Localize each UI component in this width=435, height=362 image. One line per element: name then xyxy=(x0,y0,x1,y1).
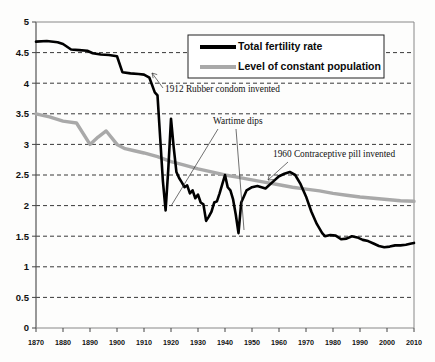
legend-label-level-of-constant-population: Level of constant population xyxy=(238,60,381,72)
x-tick-label-2010: 2010 xyxy=(406,338,422,347)
chart-legend: Total fertility rateLevel of constant po… xyxy=(188,35,384,78)
x-tick-label-1890: 1890 xyxy=(82,338,98,347)
x-tick-label-1900: 1900 xyxy=(109,338,125,347)
y-tick-label-0.5: 0.5 xyxy=(16,292,30,303)
x-tick-label-1940: 1940 xyxy=(217,338,233,347)
annotation-label-rubber-condom: 1912 Rubber condom invented xyxy=(165,84,280,94)
x-tick-label-1910: 1910 xyxy=(136,338,152,347)
y-tick-label-1: 1 xyxy=(24,261,30,272)
y-tick-label-4.5: 4.5 xyxy=(16,47,30,58)
x-tick-label-1930: 1930 xyxy=(190,338,206,347)
y-tick-label-1.5: 1.5 xyxy=(16,231,30,242)
y-tick-label-3: 3 xyxy=(24,139,29,150)
legend-label-total-fertility-rate: Total fertility rate xyxy=(238,40,323,52)
annotation-label-contraceptive-pill: 1960 Contraceptive pill invented xyxy=(273,149,395,159)
y-tick-label-3.5: 3.5 xyxy=(16,108,30,119)
annotations: 1912 Rubber condom inventedWartime dips1… xyxy=(152,73,395,230)
x-axis-ticks: 1870188018901900191019201930194019501960… xyxy=(28,328,422,347)
x-tick-label-1970: 1970 xyxy=(298,338,314,347)
annotation-label-wartime-dips: Wartime dips xyxy=(213,116,263,126)
x-tick-label-1990: 1990 xyxy=(352,338,368,347)
x-tick-label-1980: 1980 xyxy=(325,338,341,347)
y-tick-label-2.5: 2.5 xyxy=(16,169,30,180)
chart-svg: 00.511.522.533.544.55 187018801890190019… xyxy=(0,0,435,362)
y-tick-label-2: 2 xyxy=(24,200,29,211)
y-tick-label-4: 4 xyxy=(24,78,30,89)
y-axis-ticks: 00.511.522.533.544.55 xyxy=(16,16,36,333)
y-tick-label-0: 0 xyxy=(24,322,29,333)
fertility-rate-chart: 00.511.522.533.544.55 187018801890190019… xyxy=(0,0,435,362)
x-tick-label-1870: 1870 xyxy=(28,338,44,347)
x-tick-label-2000: 2000 xyxy=(379,338,395,347)
x-tick-label-1920: 1920 xyxy=(163,338,179,347)
x-tick-label-1950: 1950 xyxy=(244,338,260,347)
y-tick-label-5: 5 xyxy=(24,16,30,27)
x-tick-label-1880: 1880 xyxy=(55,338,71,347)
x-tick-label-1960: 1960 xyxy=(271,338,287,347)
